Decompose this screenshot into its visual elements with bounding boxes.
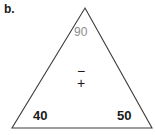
figure-canvas: b. 90 − + 40 50: [0, 0, 155, 135]
plus-sign-icon: +: [77, 76, 85, 90]
angle-label-top: 90: [74, 26, 87, 38]
part-label: b.: [4, 3, 15, 15]
angle-label-bottom-right: 50: [117, 109, 131, 122]
angle-label-bottom-left: 40: [33, 109, 47, 122]
